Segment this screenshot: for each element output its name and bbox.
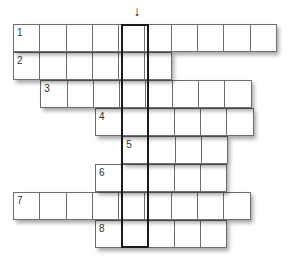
crossword-cell[interactable] (144, 52, 171, 80)
crossword-cell[interactable] (92, 24, 119, 52)
crossword-cell[interactable] (121, 164, 148, 192)
crossword-cell[interactable] (197, 192, 224, 220)
crossword-cell[interactable] (118, 24, 145, 52)
crossword-cell[interactable] (250, 24, 277, 52)
crossword-cell[interactable] (121, 220, 148, 248)
crossword-cell[interactable] (174, 164, 201, 192)
crossword-cell[interactable] (121, 108, 148, 136)
crossword-cell[interactable] (119, 80, 146, 108)
crossword-row: 2 (13, 52, 171, 80)
crossword-cell[interactable] (67, 80, 94, 108)
clue-number: 4 (99, 112, 105, 122)
crossword-cell[interactable] (148, 136, 175, 164)
crossword-cell[interactable] (201, 136, 228, 164)
crossword-cell[interactable]: 3 (40, 80, 67, 108)
crossword-cell[interactable] (66, 192, 93, 220)
crossword-row: 8 (95, 220, 226, 248)
crossword-row: 4 (95, 108, 253, 136)
crossword-cell[interactable] (200, 108, 227, 136)
crossword-cell[interactable] (171, 192, 198, 220)
crossword-cell[interactable] (226, 108, 253, 136)
crossword-cell[interactable]: 4 (95, 108, 122, 136)
crossword-cell[interactable] (197, 24, 224, 52)
crossword-cell[interactable] (118, 192, 145, 220)
crossword-cell[interactable] (92, 52, 119, 80)
down-arrow-icon: ↓ (131, 3, 143, 19)
crossword-cell[interactable]: 5 (122, 136, 149, 164)
crossword-cell[interactable]: 6 (95, 164, 122, 192)
crossword-cell[interactable] (66, 52, 93, 80)
crossword-cell[interactable] (147, 108, 174, 136)
crossword-cell[interactable]: 7 (13, 192, 40, 220)
crossword-cell[interactable] (198, 80, 225, 108)
crossword-cell[interactable]: 8 (95, 220, 122, 248)
crossword-cell[interactable] (39, 24, 66, 52)
crossword-cell[interactable] (223, 24, 250, 52)
crossword-cell[interactable] (171, 24, 198, 52)
clue-number: 7 (17, 196, 23, 206)
crossword-row: 3 (40, 80, 250, 108)
crossword-cell[interactable] (66, 24, 93, 52)
crossword-cell[interactable] (39, 52, 66, 80)
clue-number: 1 (17, 28, 23, 38)
clue-number: 3 (44, 84, 50, 94)
crossword-row: 1 (13, 24, 276, 52)
crossword-cell[interactable] (174, 220, 201, 248)
crossword-cell[interactable] (144, 192, 171, 220)
crossword-cell[interactable] (39, 192, 66, 220)
crossword-cell[interactable] (172, 80, 199, 108)
crossword-cell[interactable] (200, 220, 227, 248)
clue-number: 8 (99, 224, 105, 234)
crossword-cell[interactable]: 1 (13, 24, 40, 52)
crossword-cell[interactable] (147, 220, 174, 248)
crossword-cell[interactable] (174, 108, 201, 136)
crossword-cell[interactable] (144, 24, 171, 52)
crossword-cell[interactable] (118, 52, 145, 80)
crossword-cell[interactable] (93, 80, 120, 108)
crossword-row: 7 (13, 192, 250, 220)
crossword-row: 5 (122, 136, 227, 164)
clue-number: 6 (99, 168, 105, 178)
crossword-cell[interactable] (145, 80, 172, 108)
clue-number: 5 (126, 140, 132, 150)
crossword-cell[interactable]: 2 (13, 52, 40, 80)
crossword-cell[interactable] (223, 192, 250, 220)
crossword-cell[interactable] (224, 80, 251, 108)
crossword-cell[interactable] (175, 136, 202, 164)
crossword-cell[interactable] (147, 164, 174, 192)
crossword-cell[interactable] (92, 192, 119, 220)
clue-number: 2 (17, 56, 23, 66)
crossword-row: 6 (95, 164, 226, 192)
crossword-cell[interactable] (200, 164, 227, 192)
